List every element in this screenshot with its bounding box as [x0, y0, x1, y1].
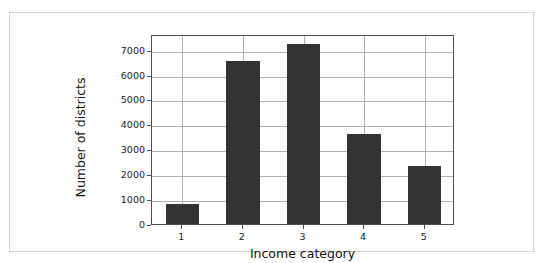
x-axis-tick-mark	[181, 225, 182, 229]
bar-category-2	[226, 61, 259, 224]
bar-category-5	[408, 166, 441, 224]
y-axis-tick-label: 3000	[121, 145, 145, 155]
y-axis-title: Number of districts	[73, 58, 88, 218]
y-axis-tick-mark	[147, 125, 151, 126]
y-axis-tick-labels: 01000200030004000500060007000	[105, 13, 145, 263]
y-axis-tick-mark	[147, 225, 151, 226]
bar-category-1	[166, 204, 199, 224]
y-axis-tick-label: 7000	[121, 46, 145, 56]
x-axis-tick-label: 3	[293, 232, 313, 242]
x-axis-title: Income category	[151, 246, 454, 261]
y-axis-tick-mark	[147, 51, 151, 52]
y-axis-tick-mark	[147, 200, 151, 201]
x-axis-tick-label: 1	[171, 232, 191, 242]
plot-area	[151, 35, 454, 225]
x-axis-tick-mark	[242, 225, 243, 229]
y-axis-tick-label: 0	[139, 220, 145, 230]
y-axis-tick-mark	[147, 76, 151, 77]
bar-category-3	[287, 44, 320, 224]
y-axis-tick-mark	[147, 100, 151, 101]
gridline-vertical	[182, 36, 183, 224]
y-axis-tick-label: 6000	[121, 71, 145, 81]
bar-category-4	[347, 134, 380, 224]
y-axis-tick-mark	[147, 175, 151, 176]
x-axis-tick-label: 4	[353, 232, 373, 242]
x-axis-tick-mark	[424, 225, 425, 229]
y-axis-tick-label: 4000	[121, 120, 145, 130]
x-axis-tick-mark	[303, 225, 304, 229]
x-axis-tick-mark	[363, 225, 364, 229]
y-axis-tick-mark	[147, 150, 151, 151]
x-axis-tick-label: 5	[414, 232, 434, 242]
y-axis-tick-label: 2000	[121, 170, 145, 180]
y-axis-tick-label: 5000	[121, 95, 145, 105]
x-axis-tick-label: 2	[232, 232, 252, 242]
y-axis-tick-label: 1000	[121, 195, 145, 205]
figure-frame: 01000200030004000500060007000 Number of …	[9, 12, 534, 252]
